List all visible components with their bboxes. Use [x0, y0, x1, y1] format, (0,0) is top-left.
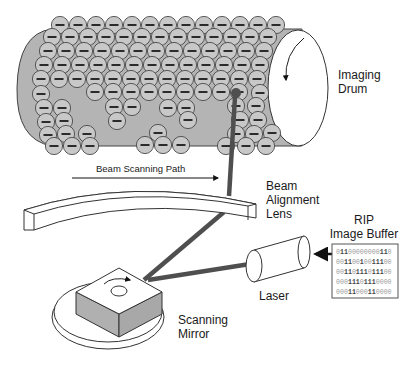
negative-charge-icon	[110, 106, 119, 108]
negative-charge-icon	[109, 91, 118, 93]
toner-particle	[68, 70, 85, 87]
toner-particle	[108, 112, 125, 129]
negative-charge-icon	[112, 64, 121, 66]
beam-scanning-path-label: Beam Scanning Path	[96, 163, 185, 174]
negative-charge-icon	[260, 50, 269, 52]
negative-charge-icon	[141, 144, 150, 146]
negative-charge-icon	[42, 121, 51, 123]
rip-buffer-row: 00011000110000	[336, 289, 392, 296]
scanning-mirror: Scanning Mirror	[52, 268, 228, 349]
negative-charge-icon	[206, 50, 215, 52]
negative-charge-icon	[242, 145, 251, 147]
negative-charge-icon	[60, 120, 69, 122]
negative-charge-icon	[56, 24, 65, 26]
negative-charge-icon	[166, 64, 175, 66]
negative-charge-icon	[50, 145, 59, 147]
negative-charge-icon	[68, 145, 77, 147]
laser-printer-diagram: Beam Scanning Path Beam Alignment Lens I…	[0, 0, 420, 372]
negative-charge-icon	[163, 91, 172, 93]
negative-charge-icon	[199, 91, 208, 93]
negative-charge-icon	[55, 78, 64, 80]
toner-particle	[159, 99, 176, 116]
negative-charge-icon	[252, 105, 261, 107]
negative-charge-icon	[235, 78, 244, 80]
negative-charge-icon	[254, 119, 263, 121]
negative-charge-icon	[202, 64, 211, 66]
toner-particle	[176, 83, 193, 100]
negative-charge-icon	[145, 91, 154, 93]
negative-charge-icon	[73, 78, 82, 80]
rip-buffer-row: 00110010011100	[336, 259, 392, 266]
negative-charge-icon	[128, 24, 137, 26]
negative-charge-icon	[236, 119, 245, 121]
negative-charge-icon	[220, 64, 229, 66]
negative-charge-icon	[224, 50, 233, 52]
negative-charge-icon	[152, 50, 161, 52]
beam-scanning-path: Beam Scanning Path	[72, 163, 218, 178]
toner-particle	[123, 98, 140, 115]
negative-charge-icon	[264, 36, 273, 38]
negative-charge-icon	[91, 91, 100, 93]
toner-particle	[194, 83, 211, 100]
drum-label-line1: Imaging	[338, 68, 381, 82]
negative-charge-icon	[130, 64, 139, 66]
negative-charge-icon	[184, 64, 193, 66]
negative-charge-icon	[181, 91, 190, 93]
lens-label-line3: Lens	[266, 207, 292, 221]
negative-charge-icon	[170, 50, 179, 52]
negative-charge-icon	[44, 50, 53, 52]
negative-charge-icon	[120, 36, 129, 38]
negative-charge-icon	[222, 145, 231, 147]
negative-charge-icon	[37, 93, 46, 95]
negative-charge-icon	[182, 107, 191, 109]
negative-charge-icon	[127, 91, 136, 93]
negative-charge-icon	[210, 36, 219, 38]
negative-charge-icon	[138, 36, 147, 38]
negative-charge-icon	[94, 64, 103, 66]
rip-buffer-row: 01100000000110	[336, 249, 392, 256]
laser-aperture	[246, 250, 262, 282]
rip-buffer-row: 00110111011100	[336, 269, 392, 276]
negative-charge-icon	[91, 78, 100, 80]
negative-charge-icon	[242, 50, 251, 52]
negative-charge-icon	[182, 24, 191, 26]
beam-focus-point	[231, 88, 241, 98]
negative-charge-icon	[84, 36, 93, 38]
negative-charge-icon	[236, 24, 245, 26]
toner-particle	[257, 137, 274, 154]
rip-label-line1: RIP	[354, 213, 374, 227]
rip-label-line2: Image Buffer	[330, 227, 398, 241]
mirror-spindle	[111, 286, 127, 296]
negative-charge-icon	[154, 132, 163, 134]
negative-charge-icon	[127, 78, 136, 80]
negative-charge-icon	[228, 36, 237, 38]
negative-charge-icon	[116, 50, 125, 52]
negative-charge-icon	[177, 144, 186, 146]
mirror-label-line1: Scanning	[178, 313, 228, 327]
negative-charge-icon	[268, 132, 277, 134]
drum-label-line2: Drum	[338, 82, 367, 96]
negative-charge-icon	[217, 91, 226, 93]
negative-charge-icon	[238, 64, 247, 66]
negative-charge-icon	[62, 50, 71, 52]
negative-charge-icon	[37, 78, 46, 80]
negative-charge-icon	[254, 24, 263, 26]
negative-charge-icon	[40, 107, 49, 109]
toner-particle	[140, 83, 157, 100]
negative-charge-icon	[110, 24, 119, 26]
negative-charge-icon	[44, 134, 53, 136]
negative-charge-icon	[146, 24, 155, 26]
toner-particle	[212, 83, 229, 100]
negative-charge-icon	[86, 145, 95, 147]
negative-charge-icon	[76, 64, 85, 66]
negative-charge-icon	[272, 24, 281, 26]
negative-charge-icon	[83, 133, 92, 135]
toner-particle	[237, 137, 254, 154]
negative-charge-icon	[246, 36, 255, 38]
negative-charge-icon	[163, 78, 172, 80]
negative-charge-icon	[48, 36, 57, 38]
negative-charge-icon	[156, 36, 165, 38]
negative-charge-icon	[181, 78, 190, 80]
toner-particle	[45, 137, 62, 154]
negative-charge-icon	[66, 36, 75, 38]
